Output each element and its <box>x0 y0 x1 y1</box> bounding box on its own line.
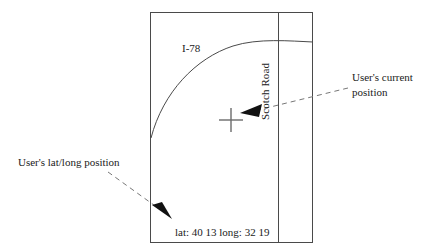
map-viewport[interactable] <box>150 12 313 243</box>
scotch-road-line <box>278 13 279 242</box>
annotation-current-position: User's current position <box>352 70 436 100</box>
annotation-latlong-position: User's lat/long position <box>18 155 120 169</box>
coordinate-readout: lat: 40 13 long: 32 19 <box>175 225 269 239</box>
road-label-i78: I-78 <box>182 41 200 55</box>
road-label-scotch-road: Scotch Road <box>258 63 272 120</box>
figure-root: I-78 Scotch Road lat: 40 13 long: 32 19 … <box>0 0 439 251</box>
